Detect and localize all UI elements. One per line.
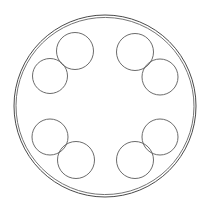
- satellite-left-upper: [33, 59, 68, 94]
- outer-circle-group: [7, 9, 203, 204]
- satellite-top-left: [57, 33, 94, 70]
- figure-canvas: [0, 0, 210, 213]
- geometric-construction-figure: [0, 0, 210, 213]
- outer-circle-primary: [14, 15, 196, 197]
- satellite-bottom-left: [58, 142, 95, 179]
- satellite-right-upper: [142, 59, 178, 95]
- outer-circle-secondary: [7, 9, 203, 204]
- satellite-circle-group: [32, 33, 178, 179]
- satellite-left-lower: [32, 119, 68, 155]
- satellite-top-right: [117, 34, 154, 71]
- satellite-right-lower: [142, 119, 178, 155]
- satellite-bottom-right: [117, 142, 154, 179]
